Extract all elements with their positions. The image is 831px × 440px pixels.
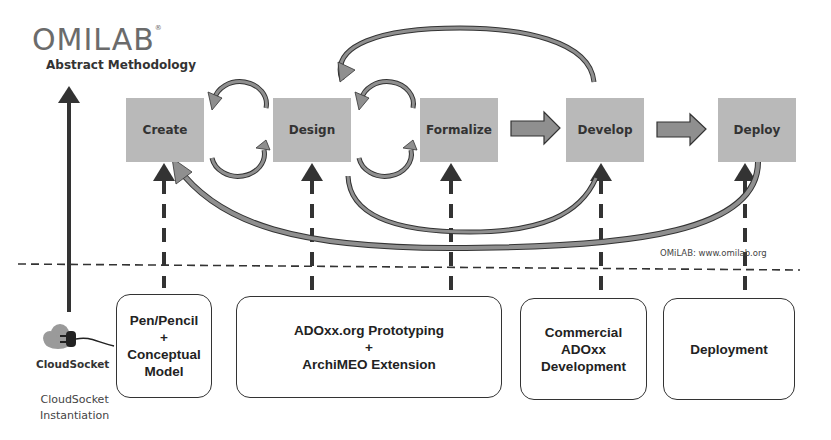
abstract-methodology-title: Abstract Methodology <box>46 58 196 72</box>
instantiation-arrow <box>58 86 80 312</box>
tool-commercial-adoxx: Commercial ADOxx Development <box>520 298 647 400</box>
phase-develop: Develop <box>566 98 644 162</box>
arc-deploy-create <box>172 158 758 248</box>
tool-pen-pencil-conceptual: Pen/Pencil + Conceptual Model <box>116 294 212 398</box>
arc-design-develop <box>348 176 596 232</box>
tool-deployment: Deployment <box>663 298 795 400</box>
layer-separator <box>18 264 800 270</box>
phase-formalize: Formalize <box>420 98 498 162</box>
cloudsocket-instantiation-caption: CloudSocket Instantiation <box>40 392 109 424</box>
omilab-logo: OMILAB® <box>32 22 163 57</box>
cloudsocket-logo-text: CloudSocket <box>36 358 109 370</box>
cloudsocket-logo-icon <box>43 324 114 349</box>
feedback-arc-develop-design <box>338 28 594 82</box>
phase-create: Create <box>126 98 204 162</box>
phase-design: Design <box>273 98 351 162</box>
omilab-credit: OMiLAB: www.omilab.org <box>660 248 767 258</box>
tool-adoxx-prototyping-archimeo: ADOxx.org Prototyping + ArchiMEO Extensi… <box>236 296 502 398</box>
phase-deploy: Deploy <box>718 98 796 162</box>
